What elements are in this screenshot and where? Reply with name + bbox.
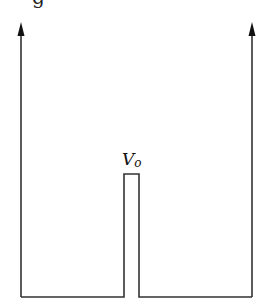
well-floor-and-barrier [21,174,252,297]
right-arrow-icon [249,22,256,36]
potential-well-diagram: g Vo [0,0,265,304]
left-arrow-icon [18,22,25,36]
barrier-label: Vo [122,149,142,170]
barrier-label-subscript: o [134,156,141,170]
right-wall [249,22,256,297]
title-fragment: g [32,0,45,9]
left-wall [18,22,25,297]
